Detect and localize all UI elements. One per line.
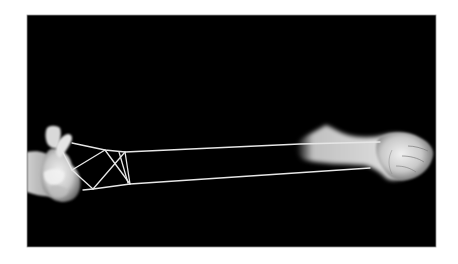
photo-frame: Hands stretching a string figure bbox=[0, 0, 458, 264]
photograph bbox=[0, 0, 458, 264]
photo-background bbox=[27, 15, 436, 247]
